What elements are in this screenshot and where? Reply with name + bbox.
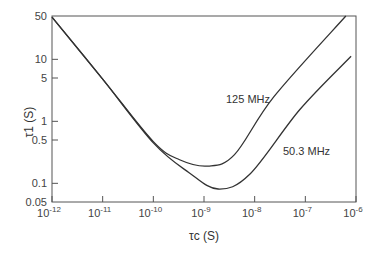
x-tick-label: 10-10 xyxy=(138,205,162,219)
x-tick-label: 10-9 xyxy=(191,205,211,219)
curves xyxy=(52,16,351,189)
x-tick-label: 10-11 xyxy=(88,205,112,219)
curve-125mhz xyxy=(52,16,346,166)
chart: 10-1210-1110-1010-910-810-710-6 5010510.… xyxy=(0,0,381,257)
y-tick-label: 50 xyxy=(35,10,47,22)
plot-frame xyxy=(52,16,356,202)
curve-label-125mhz: 125 MHz xyxy=(226,93,270,105)
y-tick-label: 0.05 xyxy=(26,196,47,208)
x-tick-label: 10-8 xyxy=(242,205,262,219)
curve-50-3mhz xyxy=(52,17,351,189)
curve-label-50-3mhz: 50.3 MHz xyxy=(283,145,330,157)
y-tick-label: 0.1 xyxy=(32,177,47,189)
y-tick-label: 5 xyxy=(41,72,47,84)
y-tick-label: 10 xyxy=(35,53,47,65)
x-axis-label: τc (S) xyxy=(189,229,219,243)
y-axis-label-text: τ1 (S) xyxy=(22,107,36,138)
y-axis-label: τ1 (S) xyxy=(22,107,36,138)
y-tick-label: 1 xyxy=(41,115,47,127)
x-axis-ticks: 10-1210-1110-1010-910-810-710-6 xyxy=(37,196,363,219)
x-tick-label: 10-7 xyxy=(293,205,313,219)
x-tick-label: 10-6 xyxy=(343,205,363,219)
